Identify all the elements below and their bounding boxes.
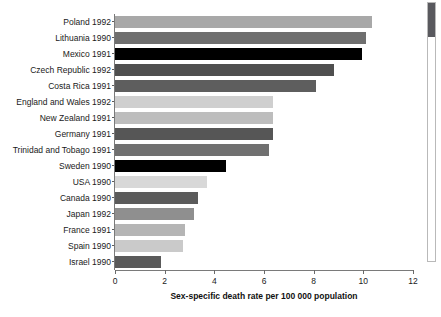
y-axis-line — [114, 14, 115, 270]
category-label: Sweden 1990 — [59, 158, 111, 174]
category-label: France 1991 — [63, 222, 111, 238]
bar-row — [115, 158, 413, 174]
category-label: Canada 1990 — [60, 190, 111, 206]
category-label: Czech Republic 1992 — [30, 62, 111, 78]
bar-row — [115, 238, 413, 254]
vertical-scrollbar[interactable] — [427, 2, 436, 262]
x-axis-tick — [115, 270, 116, 274]
bar — [115, 176, 207, 188]
bar-row — [115, 222, 413, 238]
plot-area — [115, 14, 413, 270]
bar — [115, 48, 362, 60]
bar — [115, 16, 372, 28]
category-label: Trinidad and Tobago 1991 — [13, 142, 111, 158]
category-label: Germany 1991 — [55, 126, 111, 142]
category-label: Mexico 1991 — [63, 46, 111, 62]
scrollbar-thumb[interactable] — [428, 3, 435, 37]
x-axis-tick — [413, 270, 414, 274]
bar — [115, 160, 226, 172]
bar — [115, 128, 273, 140]
category-label: Lithuania 1990 — [55, 30, 111, 46]
bar-row — [115, 126, 413, 142]
x-axis-tick-label: 12 — [398, 276, 428, 286]
category-label: USA 1990 — [73, 174, 111, 190]
bar — [115, 192, 198, 204]
category-label-column: Poland 1992Lithuania 1990Mexico 1991Czec… — [0, 14, 111, 270]
bar — [115, 144, 269, 156]
bar-row — [115, 174, 413, 190]
category-label: Costa Rica 1991 — [48, 78, 111, 94]
category-label: Japan 1992 — [67, 206, 111, 222]
category-label: New Zealand 1991 — [40, 110, 111, 126]
bar-row — [115, 14, 413, 30]
x-axis-tick-label: 2 — [150, 276, 180, 286]
bar-row — [115, 30, 413, 46]
category-label: Spain 1990 — [68, 238, 111, 254]
x-axis-tick — [214, 270, 215, 274]
bar — [115, 32, 366, 44]
bar-row — [115, 94, 413, 110]
bar-chart: Poland 1992Lithuania 1990Mexico 1991Czec… — [0, 0, 441, 317]
x-axis-tick — [165, 270, 166, 274]
bar — [115, 240, 183, 252]
x-axis-tick-label: 10 — [348, 276, 378, 286]
bar-row — [115, 206, 413, 222]
bar-row — [115, 62, 413, 78]
bar — [115, 208, 194, 220]
category-label: Poland 1992 — [63, 14, 111, 30]
x-axis-tick-label: 4 — [199, 276, 229, 286]
bar — [115, 112, 273, 124]
bar-row — [115, 190, 413, 206]
bar-row — [115, 142, 413, 158]
bar-row — [115, 254, 413, 270]
bar — [115, 256, 161, 268]
x-axis-tick-label: 8 — [299, 276, 329, 286]
category-label: England and Wales 1992 — [16, 94, 111, 110]
x-axis-tick-label: 0 — [100, 276, 130, 286]
x-axis-tick — [363, 270, 364, 274]
bar-row — [115, 110, 413, 126]
x-axis-title: Sex-specific death rate per 100 000 popu… — [115, 291, 413, 301]
x-axis-tick — [264, 270, 265, 274]
bar — [115, 224, 185, 236]
category-label: Israel 1990 — [69, 254, 111, 270]
x-axis-tick — [314, 270, 315, 274]
bar-row — [115, 46, 413, 62]
bar — [115, 80, 316, 92]
bar — [115, 64, 334, 76]
x-axis-tick-label: 6 — [249, 276, 279, 286]
bar-row — [115, 78, 413, 94]
bar — [115, 96, 273, 108]
